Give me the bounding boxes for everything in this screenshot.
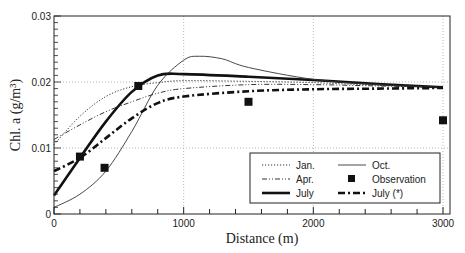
legend-label: Jan.: [296, 160, 315, 171]
y-axis-title: Chl. a (g/m³): [8, 79, 24, 152]
legend-label: July: [296, 188, 314, 199]
observation-marker: [439, 116, 447, 124]
x-tick-label: 2000: [302, 218, 325, 229]
observation-marker: [134, 82, 142, 90]
y-tick-label: 0: [45, 209, 51, 220]
legend-label: Oct.: [372, 160, 390, 171]
legend-observation-marker: [348, 175, 355, 182]
chart: 010002000300000.010.020.03 Distance (m) …: [0, 0, 465, 253]
y-tick-label: 0.03: [32, 11, 52, 22]
legend: Jan.Oct.Apr.ObservationJulyJuly (*): [250, 153, 440, 203]
observation-marker: [245, 98, 253, 106]
legend-label: July (*): [372, 188, 403, 199]
x-tick-label: 1000: [173, 218, 196, 229]
x-axis-title: Distance (m): [226, 231, 299, 247]
observation-marker: [76, 153, 84, 161]
legend-label: Apr.: [296, 174, 314, 185]
y-tick-label: 0.02: [32, 77, 52, 88]
y-tick-label: 0.01: [32, 143, 52, 154]
observation-marker: [101, 164, 109, 172]
legend-label: Observation: [372, 174, 426, 185]
x-tick-label: 3000: [432, 218, 455, 229]
x-tick-label: 0: [51, 218, 57, 229]
